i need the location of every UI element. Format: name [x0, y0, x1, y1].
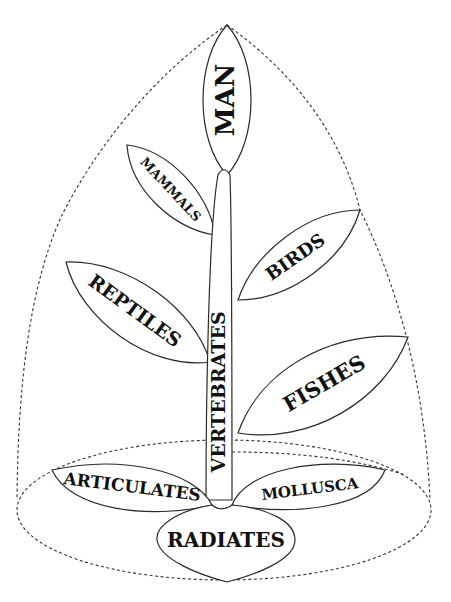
leaf-fishes: FISHES [238, 336, 408, 435]
leaf-reptiles: REPTILES [66, 262, 210, 363]
leaf-radiates: RADIATES [157, 505, 295, 582]
outer-dome-outline [17, 25, 227, 500]
tree-of-life-diagram: MAN MAMMALS BIRDS REPTILES FISHES VERTEB… [0, 0, 451, 602]
label-vertebrates: VERTEBRATES [207, 311, 229, 473]
leaf-birds: BIRDS [238, 210, 360, 300]
label-man: MAN [210, 64, 240, 137]
leaf-articulates: ARTICULATES [52, 464, 212, 511]
leaf-mollusca: MOLLUSCA [232, 464, 385, 509]
leaf-man: MAN [203, 25, 251, 175]
label-radiates: RADIATES [167, 528, 285, 552]
leaf-mammals: MAMMALS [127, 145, 215, 235]
